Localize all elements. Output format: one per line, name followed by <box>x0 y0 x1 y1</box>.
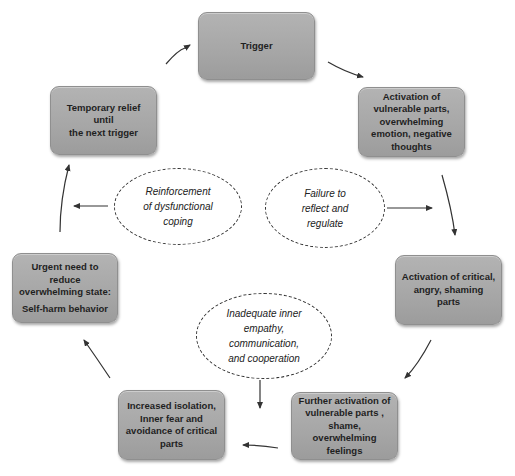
node-activation-critical: Activation of critical, angry, shaming p… <box>395 255 502 325</box>
arrow-critical-to-further <box>405 340 431 378</box>
node-label-line: Inner fear and <box>126 413 217 426</box>
mediator-label-line: communication, <box>226 336 301 351</box>
arrow-vulnerable-to-critical <box>442 175 455 235</box>
node-sublabel: Self-harm behavior <box>18 303 112 316</box>
node-label: Trigger <box>240 40 272 53</box>
node-further-activation: Further activation of vulnerable parts ,… <box>291 392 398 460</box>
mediator-label-line: of dysfunctional <box>143 199 213 214</box>
node-label-line: avoidance of critical <box>126 425 217 438</box>
arrow-trigger-to-vulnerable <box>328 62 363 77</box>
node-label-line: Activation of <box>371 91 452 104</box>
node-label-line: Activation of critical, <box>401 271 496 284</box>
node-label-line: overwhelming <box>371 116 452 129</box>
mediator-label-line: coping <box>143 214 213 229</box>
arrow-isolation-to-urgent <box>84 340 110 378</box>
mediator-label-line: regulate <box>302 216 349 231</box>
node-label-line: Further activation of <box>297 395 392 408</box>
node-trigger: Trigger <box>198 12 315 80</box>
arrow-urgent-to-relief <box>60 165 69 232</box>
node-label-line: Urgent need to reduce <box>18 261 112 286</box>
mediator-label-line: Inadequate inner <box>226 306 301 321</box>
node-label-line: Increased isolation, <box>126 400 217 413</box>
node-label-line: thoughts <box>371 141 452 154</box>
mediator-failure: Failure to reflect and regulate <box>265 168 385 248</box>
node-label-line: vulnerable parts , <box>297 407 392 420</box>
mediator-label-line: and cooperation <box>226 351 301 366</box>
node-increased-isolation: Increased isolation, Inner fear and avoi… <box>118 390 225 460</box>
mediator-label-line: Failure to <box>302 186 349 201</box>
node-activation-vulnerable: Activation of vulnerable parts, overwhel… <box>358 87 465 157</box>
mediator-label-line: empathy, <box>226 321 301 336</box>
node-label-line: angry, shaming parts <box>401 284 496 309</box>
node-label-line: Temporary relief until <box>56 102 151 127</box>
node-label-line: emotion, negative <box>371 128 452 141</box>
arrow-further-to-isolation <box>243 445 278 448</box>
node-label-line: vulnerable parts, <box>371 103 452 116</box>
node-label-line: the next trigger <box>56 127 151 140</box>
arrow-relief-to-trigger <box>166 45 190 64</box>
mediator-label-line: reflect and <box>302 201 349 216</box>
node-label-line: feelings <box>297 445 392 458</box>
mediator-label-line: Reinforcement <box>143 184 213 199</box>
node-temporary-relief: Temporary relief until the next trigger <box>50 86 157 155</box>
node-label-line: shame, overwhelming <box>297 420 392 445</box>
mediator-inadequate: Inadequate inner empathy, communication,… <box>196 293 332 379</box>
node-label-line: parts <box>126 438 217 451</box>
node-label-line: overwhelming state: <box>18 286 112 299</box>
node-urgent-need: Urgent need to reduce overwhelming state… <box>12 253 118 323</box>
mediator-reinforcement: Reinforcement of dysfunctional coping <box>114 168 242 245</box>
